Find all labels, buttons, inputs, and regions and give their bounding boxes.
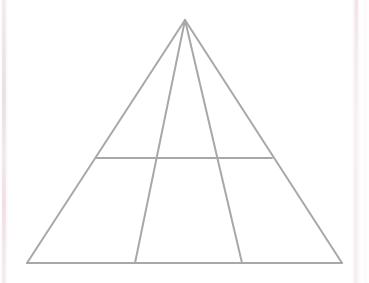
right-edge: [185, 20, 342, 263]
triangle-line-group: [27, 20, 342, 263]
cevian-right: [185, 20, 242, 263]
left-edge: [27, 20, 185, 263]
cevian-left: [135, 20, 185, 263]
triangle-diagram: [0, 0, 369, 283]
figure-canvas: [0, 0, 369, 283]
